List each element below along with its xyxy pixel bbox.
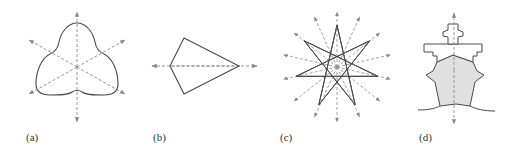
water-line xyxy=(418,106,495,111)
panel-a-trefoil xyxy=(29,12,125,122)
panel-b-label: (b) xyxy=(153,131,166,143)
panel-c-star xyxy=(283,12,390,122)
ship-funnel xyxy=(443,24,463,44)
panel-c-label: (c) xyxy=(280,131,292,143)
panel-b-kite xyxy=(152,38,257,94)
panel-a-symmetry-axes xyxy=(29,12,125,122)
panel-c-symmetry-axes xyxy=(283,12,390,122)
panel-a-label: (a) xyxy=(26,131,38,143)
panel-d-ship xyxy=(418,13,495,124)
symmetry-figure xyxy=(0,0,513,159)
panel-d-label: (d) xyxy=(419,131,432,143)
ship-hull xyxy=(426,55,484,106)
